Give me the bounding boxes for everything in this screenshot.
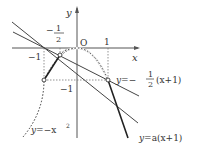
x-axis-arrow-icon <box>134 46 140 50</box>
point-neghalf <box>58 53 62 57</box>
graph-f <box>44 48 128 138</box>
tick-x-1: 1 <box>104 37 110 47</box>
y-axis-arrow-icon <box>75 6 79 13</box>
half-line-tail: (x+1) <box>156 75 181 85</box>
y-axis-label: y <box>65 7 72 18</box>
tick-y-neg1: −1 <box>60 84 73 94</box>
half-line-num: 1 <box>148 70 153 79</box>
tick-x-neghalf-num: 1 <box>56 24 61 33</box>
a-line-label: y=a(x+1) <box>138 133 182 143</box>
graph-f-mask <box>60 48 108 80</box>
line-half <box>13 32 139 96</box>
point-1-neg1 <box>106 78 110 82</box>
origin-label: O <box>80 38 87 48</box>
tick-x-neghalf-den: 2 <box>56 35 61 44</box>
half-line-den: 2 <box>148 80 153 89</box>
parabola-label: y=−x <box>30 125 56 135</box>
graph-diagram: y x O −1 − 1 2 1 −1 y=− 1 2 (x+1) y=−x 2… <box>0 0 204 150</box>
x-axis-label: x <box>132 52 138 63</box>
tick-x-neghalf-sign: − <box>46 25 54 35</box>
point-neg1-neg1 <box>42 78 46 82</box>
parabola-sup: 2 <box>66 122 70 129</box>
line-a <box>12 22 138 123</box>
tick-x-neg1: −1 <box>28 52 41 62</box>
half-line-label: y=− <box>115 75 136 85</box>
